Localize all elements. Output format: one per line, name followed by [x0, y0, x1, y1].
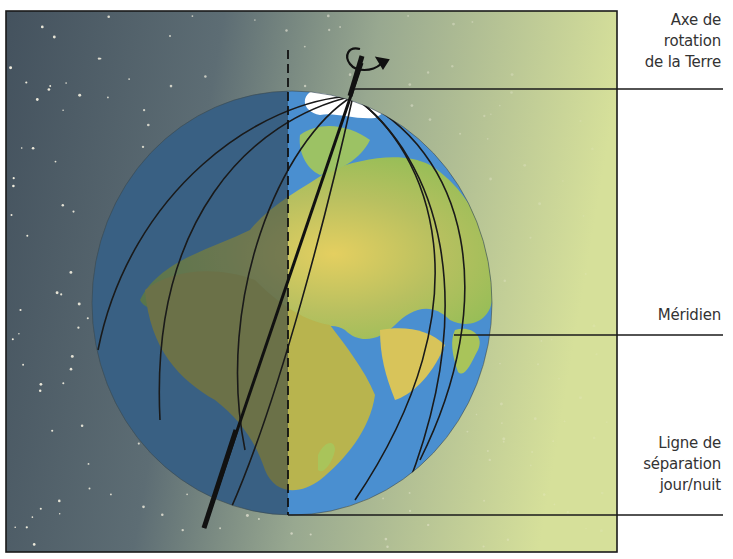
- label-axis-line-2: rotation: [645, 31, 721, 52]
- label-meridian: Méridien: [658, 305, 721, 326]
- label-terminator-line-3: jour/nuit: [643, 475, 721, 496]
- label-meridian-line-1: Méridien: [658, 305, 721, 326]
- label-axis-line-1: Axe de: [645, 10, 721, 31]
- label-terminator: Ligne de séparation jour/nuit: [643, 433, 721, 496]
- earth-illustration: [0, 0, 733, 559]
- label-terminator-line-2: séparation: [643, 454, 721, 475]
- label-terminator-line-1: Ligne de: [643, 433, 721, 454]
- label-axis-line-3: de la Terre: [645, 52, 721, 73]
- diagram: Axe de rotation de la Terre Méridien Lig…: [0, 0, 733, 559]
- label-axis: Axe de rotation de la Terre: [645, 10, 721, 73]
